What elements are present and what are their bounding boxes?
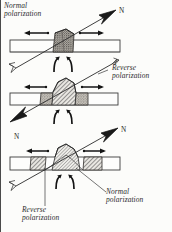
label-north-right: N <box>121 126 126 134</box>
block-right-normal-2 <box>75 93 88 105</box>
block-right-reverse-3 <box>83 157 102 170</box>
spread-arrow-left-2 <box>24 85 47 90</box>
label-normal-polarization-bottom: Normal polarization <box>106 188 143 205</box>
spread-arrow-right-1 <box>79 31 104 36</box>
upwelling-arrows-3 <box>56 174 74 189</box>
spread-arrow-right-2 <box>81 85 104 90</box>
spread-arrow-left-3 <box>26 149 49 154</box>
leader-line-normal-bottom <box>76 168 106 192</box>
panel-stage-2 <box>10 58 119 124</box>
upwelling-arrows-1 <box>54 56 72 72</box>
block-left-reverse-3 <box>30 157 46 170</box>
spread-arrow-right-3 <box>83 149 106 154</box>
label-normal-polarization-top: Normal polarization <box>4 2 41 19</box>
panel-stage-1 <box>9 10 120 73</box>
spread-arrow-left-1 <box>24 31 49 36</box>
diagram-canvas <box>0 0 172 232</box>
upwelling-arrows-2 <box>54 109 72 124</box>
label-reverse-polarization-right: Reverse polarization <box>112 64 149 81</box>
panel-stage-3 <box>9 128 120 191</box>
figure-seafloor-spreading: Normal polarization Reverse polarization… <box>0 0 172 232</box>
label-reverse-polarization-bottom: Reverse polarization <box>22 206 59 223</box>
label-north-left: N <box>14 133 19 141</box>
label-north-top: N <box>119 7 124 15</box>
